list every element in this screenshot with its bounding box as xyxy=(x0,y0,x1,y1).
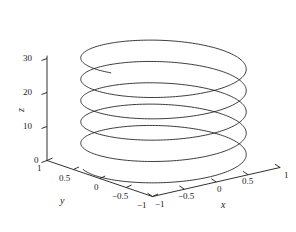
x-axis-title: x xyxy=(221,200,225,210)
z-tick-label-10: 10 xyxy=(23,122,32,131)
y-tick-label-0: 0 xyxy=(94,183,99,192)
x-tick-label-m0p5: −0.5 xyxy=(178,192,194,201)
x-tick-label-0: 0 xyxy=(217,185,222,194)
x-tick-1 xyxy=(275,164,280,167)
x-tick-0p5 xyxy=(243,171,248,174)
y-tick-m0p5 xyxy=(126,185,132,188)
helix-3d-plot-figure: 30 20 10 0 z 1 0.5 0 −0.5 −1 y −1 −0.5 0… xyxy=(0,0,296,232)
z-tick-20 xyxy=(42,93,48,95)
z-axis-ticks xyxy=(42,59,48,163)
z-tick-10 xyxy=(42,127,48,129)
x-tick-0 xyxy=(211,179,216,182)
x-tick-label-0p5: 0.5 xyxy=(242,177,253,186)
z-tick-30 xyxy=(42,59,48,61)
y-tick-label-0p5: 0.5 xyxy=(59,174,70,183)
y-tick-label-m0p5: −0.5 xyxy=(112,192,128,201)
helix-curve xyxy=(81,40,246,183)
y-tick-0p5 xyxy=(73,167,79,170)
x-tick-label-1: 1 xyxy=(284,171,289,180)
x-tick-m0p5 xyxy=(179,186,184,189)
y-tick-label-m1: −1 xyxy=(137,201,147,210)
x-axis-ticks xyxy=(148,164,281,196)
z-axis-title: z xyxy=(16,108,26,112)
helix-curve-group xyxy=(81,40,246,183)
z-tick-label-20: 20 xyxy=(23,88,32,97)
y-tick-label-1: 1 xyxy=(37,164,42,173)
y-tick-1 xyxy=(47,158,53,161)
y-axis-title: y xyxy=(60,196,64,206)
plot-canvas xyxy=(0,0,296,232)
z-tick-0 xyxy=(42,161,48,163)
x-tick-label-m1: −1 xyxy=(155,200,165,209)
z-tick-label-30: 30 xyxy=(23,54,32,63)
